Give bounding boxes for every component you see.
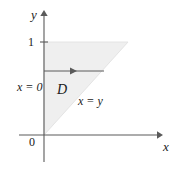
x-axis [19, 131, 163, 139]
hypotenuse-label: x = y [78, 95, 103, 107]
region-label-d: D [57, 83, 67, 97]
y-tick-label-1: 1 [28, 36, 34, 48]
y-axis-label: y [31, 8, 37, 21]
figure-canvas: y x 1 0 x = 0 D x = y [0, 0, 179, 169]
x-axis-arrowhead [157, 131, 163, 139]
x-axis-label: x [163, 140, 169, 153]
left-boundary-label: x = 0 [17, 81, 42, 93]
origin-label: 0 [29, 136, 35, 148]
y-axis-arrowhead [40, 10, 47, 16]
